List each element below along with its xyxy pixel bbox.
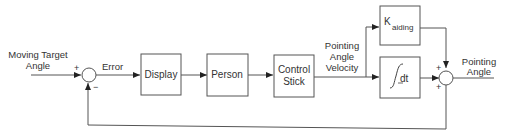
person-block: Person xyxy=(207,54,248,96)
svg-text:Angle: Angle xyxy=(330,51,354,62)
svg-text:Person: Person xyxy=(211,69,243,80)
branch-to-kaiding-arrow xyxy=(366,27,379,77)
sum2-plus-left: + xyxy=(436,82,441,92)
svg-text:Control: Control xyxy=(278,64,310,75)
output-label: Pointing Angle xyxy=(462,56,496,77)
svg-text:dt: dt xyxy=(400,73,409,84)
summing-junction-1: + − xyxy=(74,63,98,92)
summing-junction-2: + + xyxy=(436,63,453,92)
svg-text:Moving Target: Moving Target xyxy=(8,49,68,60)
svg-text:Display: Display xyxy=(145,69,178,80)
integrator-block: dt xyxy=(380,57,420,98)
sum1-plus-sign: + xyxy=(74,63,79,73)
svg-text:aiding: aiding xyxy=(392,23,413,32)
svg-text:Angle: Angle xyxy=(467,66,491,77)
k-aiding-block: K aiding xyxy=(380,6,420,45)
sum1-minus-sign: − xyxy=(93,82,98,92)
svg-text:Angle: Angle xyxy=(26,60,50,71)
error-label: Error xyxy=(102,61,123,72)
input-label: Moving Target Angle xyxy=(8,49,68,71)
svg-text:K: K xyxy=(384,16,391,27)
display-block: Display xyxy=(141,54,181,95)
svg-text:Pointing: Pointing xyxy=(325,40,359,51)
control-stick-block: Control Stick xyxy=(274,55,314,97)
kaiding-sum2-arrow xyxy=(420,28,446,68)
block-diagram: Moving Target Angle + − Error Display Pe… xyxy=(0,0,507,138)
sum2-plus-top: + xyxy=(436,63,441,73)
velocity-label: Pointing Angle Velocity xyxy=(325,40,359,73)
svg-text:Stick: Stick xyxy=(283,76,306,87)
svg-text:Velocity: Velocity xyxy=(326,62,359,73)
